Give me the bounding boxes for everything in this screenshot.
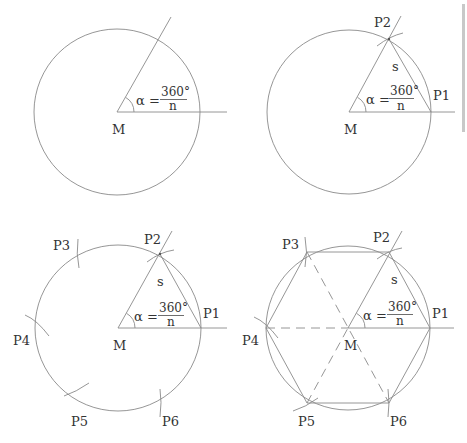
- point-label-p5: P5: [71, 414, 88, 429]
- formula-numerator: 360°: [388, 300, 417, 314]
- point-label-p4: P4: [242, 333, 259, 348]
- point-label-p2: P2: [144, 232, 161, 247]
- formula-denominator: n: [167, 315, 175, 329]
- alpha-label: α =: [366, 92, 390, 107]
- point-label-p6: P6: [162, 414, 179, 429]
- hexagon-construction-diagram: α = 360° n M α = 360° n s P1 P2 M α: [0, 0, 467, 443]
- point-label-p2: P2: [373, 230, 390, 245]
- compass-arc-p6: [160, 389, 161, 417]
- side-label-s: s: [392, 59, 399, 74]
- point-label-p2: P2: [374, 15, 391, 30]
- center-label-m: M: [344, 338, 357, 353]
- side-label-s: s: [391, 272, 398, 287]
- side-s-line: [389, 39, 431, 112]
- point-label-p3: P3: [53, 238, 70, 253]
- formula-numerator: 360°: [159, 301, 188, 315]
- point-label-p1: P1: [432, 306, 449, 321]
- panel-step-1: α = 360° n M: [34, 17, 227, 195]
- compass-arc-p3: [77, 239, 79, 268]
- point-label-p1: P1: [203, 306, 220, 321]
- point-p2-dot: [388, 38, 390, 40]
- panel-step-3: α = 360° n s P1 P2 P3 P4 P5 P6 M: [13, 231, 227, 429]
- alpha-label: α =: [136, 93, 160, 108]
- point-label-p4: P4: [13, 333, 30, 348]
- formula-denominator: n: [396, 314, 404, 328]
- panel-step-2: α = 360° n s P1 P2 M: [267, 15, 455, 194]
- center-label-m: M: [344, 122, 357, 137]
- compass-arc-p3: [305, 237, 307, 267]
- point-label-p5: P5: [298, 414, 315, 429]
- alpha-label: α =: [134, 309, 158, 324]
- formula-numerator: 360°: [390, 84, 419, 98]
- point-label-p3: P3: [282, 237, 299, 252]
- formula-numerator: 360°: [161, 85, 190, 99]
- formula-denominator: n: [169, 99, 177, 113]
- point-label-p6: P6: [390, 414, 407, 429]
- side-label-s: s: [157, 274, 164, 289]
- formula-denominator: n: [397, 99, 405, 113]
- center-label-m: M: [112, 122, 125, 137]
- angle-arc-icon: [358, 97, 367, 112]
- center-label-m: M: [113, 338, 126, 353]
- alpha-label: α =: [363, 308, 387, 323]
- point-p2-dot: [159, 253, 161, 255]
- angle-arc-icon: [126, 97, 135, 112]
- panel-step-4: α = 360° n s P1 P2 P3 P4 P5 P6 M: [242, 230, 454, 429]
- point-label-p1: P1: [433, 88, 450, 103]
- dashed-diagonal-p5: [307, 328, 348, 403]
